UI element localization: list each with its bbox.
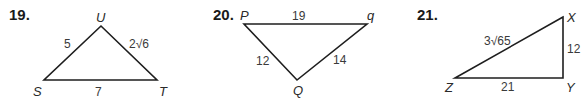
side-length: 12: [567, 42, 581, 56]
vertex-label: P: [240, 8, 249, 23]
vertex-label: Y: [566, 80, 576, 95]
side-length: 3√65: [484, 34, 511, 48]
side-length: 12: [256, 54, 270, 68]
vertex-label: Z: [444, 80, 454, 95]
side-length: 7: [95, 85, 102, 99]
problem-number: 21.: [417, 6, 438, 23]
triangle-PqQ: [244, 24, 367, 80]
triangle-exercises: 19. U S T 5 2√6 7 20. P q Q 19 12 14 21.…: [0, 0, 588, 103]
vertex-label: X: [566, 10, 577, 25]
vertex-label: U: [96, 10, 106, 25]
problem-20: 20. P q Q 19 12 14: [213, 6, 375, 98]
side-length: 14: [333, 53, 347, 67]
problem-19: 19. U S T 5 2√6 7: [9, 6, 168, 99]
triangle-SUT: [44, 26, 157, 80]
side-length: 19: [292, 9, 306, 23]
vertex-label: Q: [293, 83, 303, 98]
problem-number: 19.: [9, 6, 30, 23]
vertex-label: q: [367, 8, 375, 23]
side-length: 2√6: [129, 37, 149, 51]
vertex-label: S: [33, 84, 42, 99]
vertex-label: T: [159, 84, 168, 99]
side-length: 21: [501, 80, 515, 94]
problem-number: 20.: [213, 6, 234, 23]
side-length: 5: [64, 37, 71, 51]
problem-21: 21. X Z Y 3√65 12 21: [417, 6, 581, 95]
